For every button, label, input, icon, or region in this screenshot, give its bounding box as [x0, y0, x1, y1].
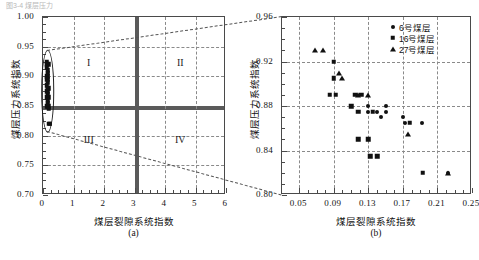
axis-tick-y	[282, 195, 287, 196]
axis-tick-y	[282, 84, 285, 85]
top-text-fragment: 图3-4 煤层压力	[6, 0, 53, 10]
axis-title-x: 煤层裂隙系统指数	[336, 214, 416, 228]
axis-tick-y	[282, 28, 285, 29]
data-point-square	[421, 171, 426, 176]
gridline-vertical	[334, 17, 335, 193]
data-point-square	[332, 76, 337, 81]
axis-tick-x	[360, 190, 361, 193]
axis-tick-y	[282, 173, 285, 174]
data-point-square	[47, 122, 52, 127]
axis-tick-x	[299, 188, 300, 193]
square-marker	[390, 35, 395, 40]
axis-tick-x	[308, 190, 309, 193]
axis-tick-label-x: 0.09	[324, 199, 341, 208]
axis-tick-label-x: 0.17	[393, 199, 410, 208]
axis-tick-y	[43, 165, 48, 166]
gridline-horizontal	[282, 62, 470, 63]
axis-tick-x	[342, 190, 343, 193]
legend-item: 27号煤层	[389, 43, 435, 54]
axis-tick-x	[325, 190, 326, 193]
axis-title-y: 煤层压力系统指数	[247, 59, 261, 139]
axis-title-x: 煤层裂隙系统指数	[94, 214, 174, 228]
axis-tick-x	[368, 188, 369, 193]
legend-marker-wrap	[389, 23, 396, 30]
axis-tick-label-x: 0	[40, 199, 45, 208]
data-point-triangle	[312, 48, 318, 53]
data-point-triangle	[445, 170, 451, 175]
data-point-circle	[403, 121, 407, 125]
axis-tick-x	[317, 190, 318, 193]
gridline-horizontal	[43, 76, 224, 77]
axis-tick-x	[377, 190, 378, 193]
axis-tick-y	[282, 117, 285, 118]
data-point-circle	[379, 115, 383, 119]
data-point-circle	[375, 110, 379, 114]
axis-tick-x	[429, 190, 430, 193]
axis-title-y: 煤层压力系统指数	[8, 59, 22, 139]
axis-tick-label-x: 5	[192, 199, 197, 208]
axis-tick-y	[43, 39, 46, 40]
axis-tick-y	[282, 106, 287, 107]
data-point-circle	[384, 104, 388, 108]
axis-tick-y	[282, 73, 285, 74]
axis-tick-y	[282, 62, 287, 63]
triangle-marker	[390, 46, 396, 51]
chart-legend: 6号煤层16号煤层27号煤层	[389, 21, 435, 54]
axis-tick-label-y: 0.84	[0, 145, 273, 154]
data-point-square	[349, 104, 354, 109]
data-point-circle	[401, 115, 405, 119]
axis-tick-y	[282, 162, 285, 163]
data-point-square	[370, 109, 375, 114]
axis-tick-y	[282, 184, 285, 185]
axis-tick-y	[43, 32, 46, 33]
data-point-triangle	[365, 92, 371, 97]
axis-tick-x	[403, 188, 404, 193]
axis-tick-label-y: 0.96	[0, 12, 273, 21]
data-point-circle	[420, 121, 424, 125]
axis-tick-x	[437, 188, 438, 193]
axis-tick-label-x: 3	[131, 199, 136, 208]
axis-tick-label-y: 0.95	[0, 41, 34, 50]
legend-marker-wrap	[389, 34, 396, 41]
data-point-triangle	[320, 48, 326, 53]
axis-tick-label-x: 0.13	[359, 199, 376, 208]
axis-tick-y	[43, 47, 48, 48]
quadrant-label-IV: IV	[175, 133, 186, 144]
circle-marker	[391, 25, 395, 29]
axis-tick-y	[43, 180, 46, 181]
data-point-square	[327, 93, 332, 98]
axis-tick-x	[420, 190, 421, 193]
axis-tick-label-y: 0.80	[0, 190, 273, 199]
axis-tick-y	[282, 139, 285, 140]
axis-tick-label-x: 0.05	[290, 199, 307, 208]
legend-marker-wrap	[389, 45, 396, 52]
axis-tick-x	[351, 190, 352, 193]
gridline-horizontal	[282, 106, 470, 107]
data-point-square	[375, 154, 380, 159]
axis-tick-x	[334, 188, 335, 193]
axis-tick-y	[43, 143, 46, 144]
axis-tick-label-y: 0.88	[0, 101, 273, 110]
axis-tick-y	[282, 128, 285, 129]
data-point-circle	[366, 104, 370, 108]
data-point-circle	[384, 110, 388, 114]
axis-tick-label-x: 0.25	[463, 199, 479, 208]
axis-tick-label-x: 4	[162, 199, 167, 208]
data-point-square	[368, 154, 373, 159]
data-point-square	[333, 93, 338, 98]
panel-label: (a)	[128, 228, 139, 238]
gridline-horizontal	[282, 151, 470, 152]
axis-tick-x	[446, 190, 447, 193]
data-point-square	[408, 120, 413, 125]
axis-tick-x	[386, 190, 387, 193]
axis-tick-x	[463, 190, 464, 193]
axis-tick-y	[282, 17, 287, 18]
panel-b-plot-area	[281, 16, 471, 194]
axis-tick-y	[43, 24, 46, 25]
axis-tick-x	[455, 190, 456, 193]
gridline-vertical	[299, 17, 300, 193]
legend-item: 6号煤层	[389, 21, 435, 32]
axis-tick-label-x: 1	[70, 199, 75, 208]
axis-tick-y	[43, 158, 46, 159]
axis-tick-y	[43, 173, 46, 174]
